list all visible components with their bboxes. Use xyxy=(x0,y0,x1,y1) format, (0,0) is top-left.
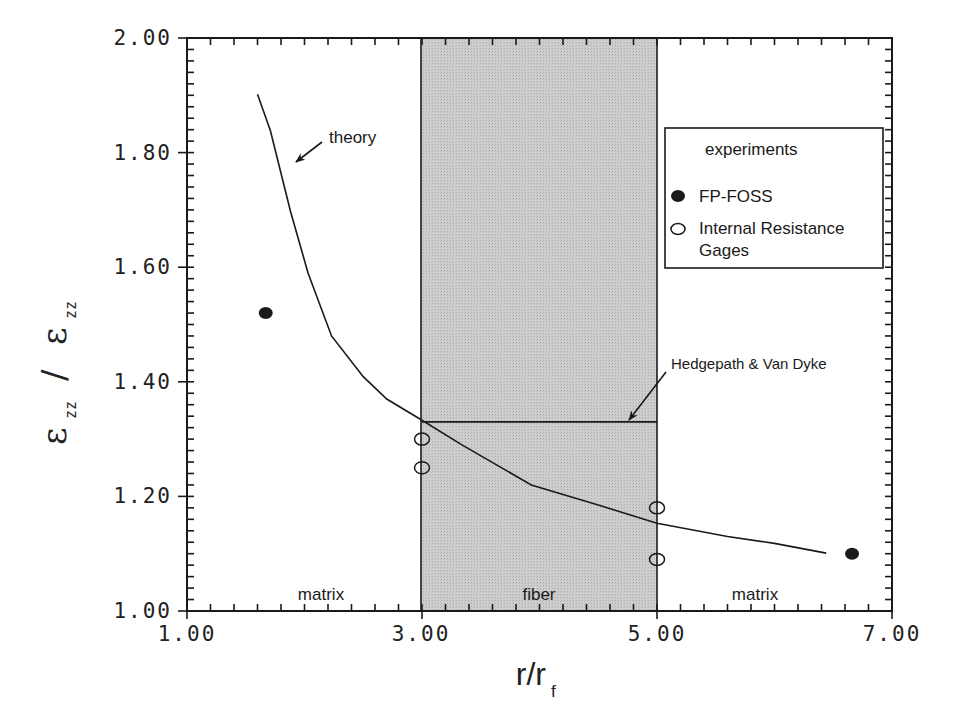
theory-annotation: theory xyxy=(329,128,377,147)
y-axis-labels: 1.00 1.20 1.40 1.60 1.80 2.00 xyxy=(113,26,172,623)
y-tick-label: 1.40 xyxy=(113,370,172,394)
region-label-fiber: fiber xyxy=(522,585,555,604)
x-tick-label: 3.00 xyxy=(392,622,451,646)
region-label-matrix-left: matrix xyxy=(298,585,345,604)
x-axis-title: r/r f xyxy=(516,656,556,701)
y-tick-label: 1.60 xyxy=(113,255,172,279)
y-tick-label: 1.80 xyxy=(113,141,172,165)
y-axis-title: ε zz / ε zz xyxy=(34,301,80,445)
x-tick-label: 7.00 xyxy=(863,622,922,646)
x-tick-label: 1.00 xyxy=(158,622,217,646)
hedgepath-annotation: Hedgepath & Van Dyke xyxy=(671,355,827,372)
region-label-matrix-right: matrix xyxy=(732,585,779,604)
x-axis-labels: 1.00 3.00 5.00 7.00 xyxy=(158,622,922,646)
y-tick-label: 2.00 xyxy=(113,26,172,50)
y-axis-title-eps-den: ε xyxy=(34,327,74,345)
legend: experiments FP-FOSS Internal Resistance … xyxy=(665,128,883,268)
y-axis-title-sub-num: zz xyxy=(62,401,80,419)
legend-item-irg-line1: Internal Resistance xyxy=(699,219,845,238)
x-tick-label: 5.00 xyxy=(628,622,687,646)
y-tick-label: 1.00 xyxy=(113,599,172,623)
y-axis-title-sep: / xyxy=(34,369,74,381)
y-axis-title-eps-num: ε xyxy=(34,427,74,445)
legend-item-fp-foss: FP-FOSS xyxy=(699,187,773,206)
fiber-region xyxy=(421,38,657,611)
fp-foss-point xyxy=(845,548,859,560)
theory-arrow xyxy=(296,142,322,162)
filled-circle-icon xyxy=(671,190,685,202)
y-axis-title-sub-den: zz xyxy=(62,301,80,319)
x-axis-title-sub: f xyxy=(551,682,556,701)
y-tick-label: 1.20 xyxy=(113,484,172,508)
legend-title: experiments xyxy=(705,140,798,159)
x-axis-title-main: r/r xyxy=(516,656,547,692)
fp-foss-point xyxy=(259,307,273,319)
chart: 1.00 1.20 1.40 1.60 1.80 2.00 1.00 3.00 … xyxy=(0,0,958,714)
legend-item-irg-line2: Gages xyxy=(699,241,749,260)
